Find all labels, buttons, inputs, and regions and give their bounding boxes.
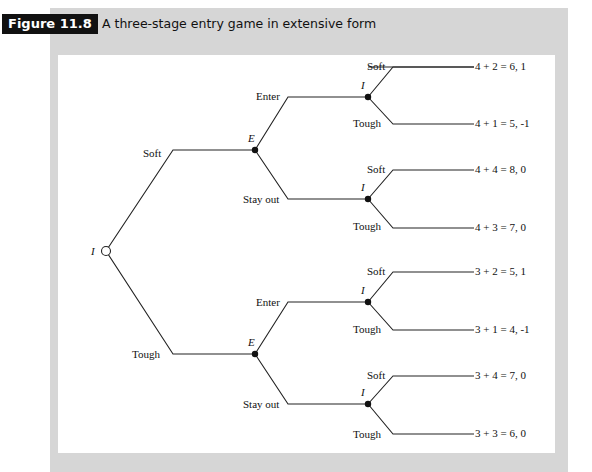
incumbent-node-1	[365, 94, 371, 100]
payoff-8: 3 + 3 = 6, 0	[475, 427, 526, 439]
incumbent-label-4: I	[360, 386, 366, 398]
move-label-soft: Soft	[143, 147, 161, 159]
payoff-6: 3 + 1 = 4, -1	[475, 323, 530, 335]
entrant-node-1	[252, 147, 258, 153]
payoff-7: 3 + 4 = 7, 0	[475, 369, 526, 381]
move-label-tough: Tough	[132, 348, 160, 360]
move-label-soft-4: Soft	[367, 369, 385, 381]
entrant-label-1: E	[247, 132, 255, 144]
move-label-soft-2: Soft	[367, 163, 385, 175]
game-tree: I E E I I I I Soft Tough Enter Stay out …	[0, 0, 592, 472]
incumbent-node-3	[365, 299, 371, 305]
move-label-tough-2: Tough	[353, 220, 381, 232]
payoff-5: 3 + 2 = 5, 1	[475, 265, 526, 277]
move-label-tough-3: Tough	[353, 323, 381, 335]
branch-enter-1	[255, 97, 368, 150]
root-node	[102, 247, 111, 256]
branch-stayout-2	[255, 354, 368, 404]
incumbent-node-2	[365, 196, 371, 202]
branch-enter-2	[255, 302, 368, 354]
payoff-3: 4 + 4 = 8, 0	[475, 163, 526, 175]
move-label-enter-2: Enter	[256, 296, 280, 308]
root-label: I	[90, 245, 96, 257]
move-label-enter-1: Enter	[256, 90, 280, 102]
entrant-label-2: E	[247, 336, 255, 348]
branch-stayout-1	[255, 150, 368, 199]
move-label-tough-4: Tough	[353, 428, 381, 440]
branch-tough	[106, 251, 255, 354]
incumbent-label-3: I	[360, 284, 366, 296]
move-label-stayout-2: Stay out	[243, 398, 279, 410]
incumbent-label-1: I	[360, 79, 366, 91]
incumbent-label-2: I	[360, 181, 366, 193]
payoff-4: 4 + 3 = 7, 0	[475, 221, 526, 233]
incumbent-node-4	[365, 401, 371, 407]
move-label-tough-1: Tough	[353, 117, 381, 129]
move-label-soft-1: Soft	[367, 60, 385, 72]
entrant-node-2	[252, 351, 258, 357]
move-label-soft-3: Soft	[367, 265, 385, 277]
payoff-1: 4 + 2 = 6, 1	[475, 60, 526, 72]
branch-soft	[106, 150, 255, 251]
move-label-stayout-1: Stay out	[243, 193, 279, 205]
payoff-2: 4 + 1 = 5, -1	[475, 117, 530, 129]
